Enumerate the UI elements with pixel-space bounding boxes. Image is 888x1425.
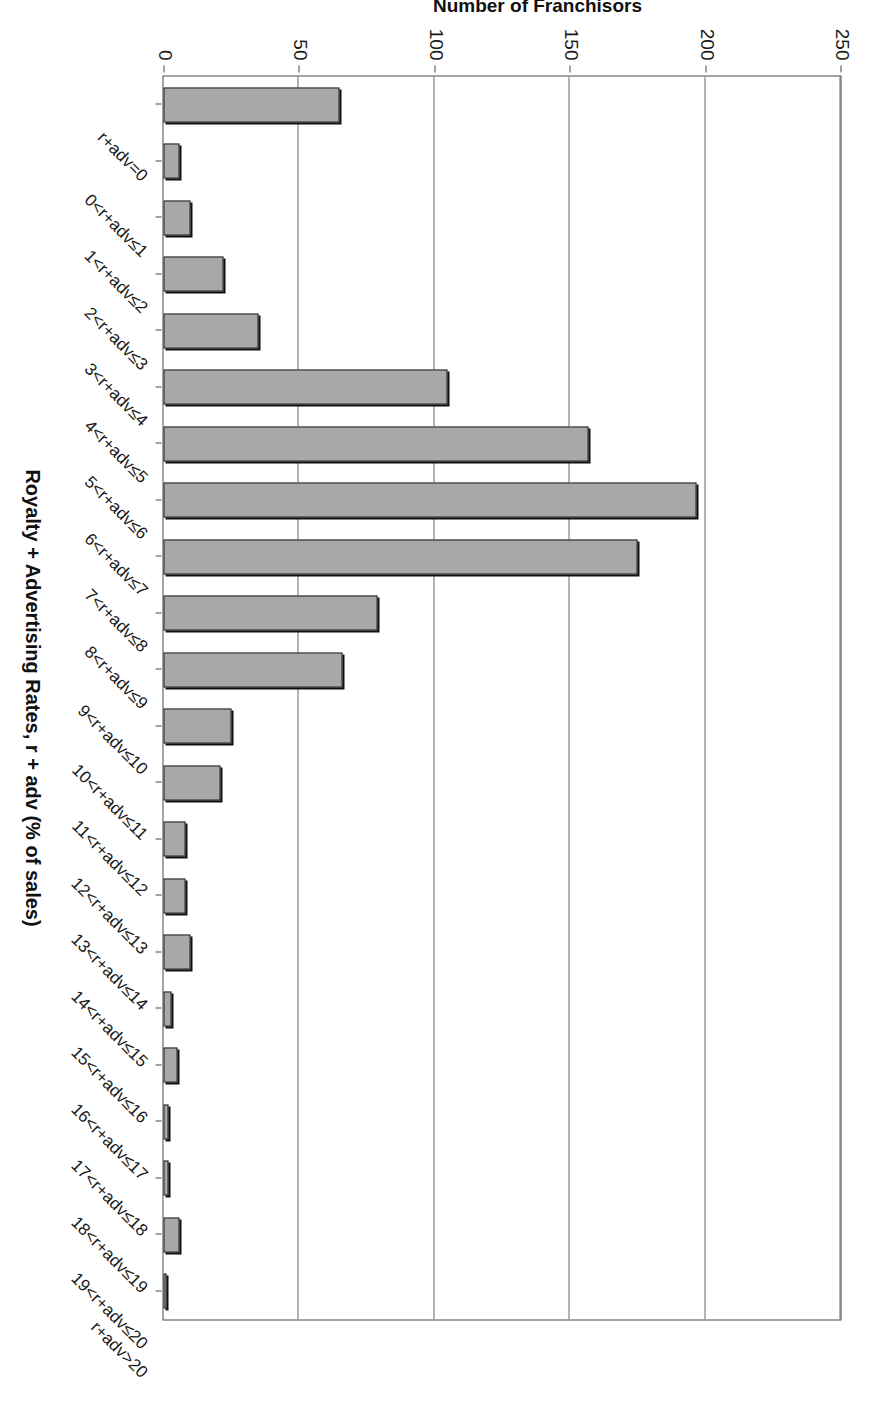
bar — [163, 482, 696, 517]
x-axis-tick-mark — [155, 216, 161, 217]
bar — [163, 1273, 166, 1308]
gridline — [433, 76, 434, 1319]
bar — [163, 652, 342, 687]
bar — [163, 878, 185, 913]
bar — [163, 821, 185, 856]
x-axis-tick-mark — [155, 1233, 161, 1234]
x-axis-tick-mark — [155, 1007, 161, 1008]
x-axis-tick-mark — [155, 442, 161, 443]
bar — [163, 1160, 168, 1195]
x-axis-tick-mark — [155, 668, 161, 669]
plot-area — [162, 75, 841, 1320]
x-axis-tick-mark — [155, 329, 161, 330]
y-axis-tick-mark — [163, 65, 164, 72]
bar — [163, 595, 377, 630]
bar — [163, 313, 258, 348]
x-axis-tick-mark — [155, 386, 161, 387]
x-axis-tick-mark — [155, 555, 161, 556]
bar — [163, 1217, 179, 1252]
bar — [163, 256, 223, 291]
x-axis-tick-mark — [155, 951, 161, 952]
bar — [163, 934, 190, 969]
x-axis-tick-label: r+adv=0 — [93, 128, 151, 186]
x-axis-tick-mark — [155, 499, 161, 500]
y-axis-tick-label: 150 — [559, 28, 581, 60]
y-axis-tick-mark — [569, 65, 570, 72]
bar — [163, 991, 171, 1026]
x-axis-tick-mark — [155, 160, 161, 161]
bar — [163, 369, 447, 404]
y-axis-tick-mark — [705, 65, 706, 72]
y-axis-tick-mark — [840, 65, 841, 72]
y-axis-tick-mark — [298, 65, 299, 72]
x-axis-tick-mark — [155, 273, 161, 274]
bar — [163, 143, 179, 178]
y-axis-tick-label: 100 — [424, 28, 446, 60]
x-axis-tick-mark — [155, 612, 161, 613]
y-axis-tick-label: 50 — [288, 39, 310, 60]
x-axis-tick-mark — [155, 1120, 161, 1121]
y-axis-tick-mark — [434, 65, 435, 72]
x-axis-tick-mark — [155, 894, 161, 895]
bar — [163, 426, 588, 461]
y-axis-tick-label: 250 — [830, 28, 852, 60]
y-axis-title: Number of Franchisors — [217, 0, 857, 16]
gridline — [568, 76, 569, 1319]
chart-page: 050100150200250 Number of Franchisors r+… — [0, 0, 888, 1425]
y-axis-tick-label: 0 — [153, 49, 175, 60]
x-axis-tick-mark — [155, 103, 161, 104]
rotated-figure-container: 050100150200250 Number of Franchisors r+… — [0, 0, 888, 1425]
gridline — [297, 76, 298, 1319]
x-axis-tick-mark — [155, 725, 161, 726]
bar — [163, 1104, 168, 1139]
x-axis-title: Royalty + Advertising Rates, r + adv (% … — [20, 75, 43, 1320]
x-axis-tick-mark — [155, 1064, 161, 1065]
x-axis: r+adv=00<r+adv≤11<r+adv≤22<r+adv≤33<r+ad… — [41, 75, 161, 1320]
bar — [163, 200, 190, 235]
y-axis-tick-label: 200 — [695, 28, 717, 60]
gridline — [839, 76, 840, 1319]
bar — [163, 1047, 177, 1082]
x-axis-tick-mark — [155, 838, 161, 839]
x-axis-tick-mark — [155, 1177, 161, 1178]
gridline — [704, 76, 705, 1319]
bar — [163, 765, 220, 800]
x-axis-tick-mark — [155, 781, 161, 782]
x-axis-tick-mark — [155, 1290, 161, 1291]
bar — [163, 708, 231, 743]
bar-chart-figure: 050100150200250 Number of Franchisors r+… — [0, 0, 888, 1425]
bar — [163, 539, 637, 574]
bar — [163, 87, 339, 122]
